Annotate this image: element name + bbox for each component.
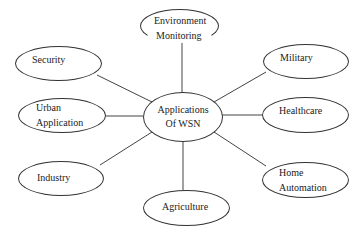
home-label-line1: Home: [279, 167, 303, 179]
line-industry: [100, 132, 152, 165]
node-agriculture: Agriculture: [143, 190, 230, 226]
healthcare-label: Healthcare: [279, 105, 322, 117]
line-military: [214, 72, 266, 102]
environment-label-line1: Environment: [154, 15, 206, 27]
urban-label-line2: Application: [36, 117, 83, 129]
center-node-applications-of-wsn: Applications Of WSN: [143, 92, 223, 142]
node-environment-monitoring: Environment Monitoring: [140, 9, 219, 43]
military-label: Military: [280, 52, 313, 64]
environment-label-line2: Monitoring: [156, 30, 202, 42]
node-urban-application: Urban Application: [18, 98, 106, 133]
home-label-line2: Automation: [279, 182, 327, 194]
node-home-automation: Home Automation: [262, 162, 349, 198]
line-security: [97, 75, 152, 102]
center-label-line2: Of WSN: [144, 117, 222, 131]
node-security: Security: [15, 46, 102, 81]
urban-label-line1: Urban: [36, 102, 61, 114]
node-industry: Industry: [18, 161, 104, 196]
industry-label: Industry: [37, 172, 70, 184]
security-label: Security: [32, 54, 65, 66]
node-healthcare: Healthcare: [262, 97, 349, 133]
center-label-line1: Applications: [144, 103, 222, 117]
line-home: [214, 132, 266, 166]
node-military: Military: [263, 44, 349, 79]
agriculture-label: Agriculture: [162, 201, 208, 213]
